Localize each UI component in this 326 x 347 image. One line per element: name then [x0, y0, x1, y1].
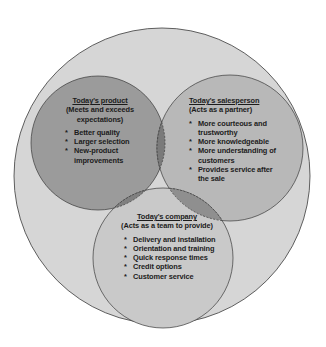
list-item: More understanding of customers: [189, 146, 279, 165]
list-item: Larger selection: [65, 137, 140, 146]
product-list: Better quality Larger selection New-prod…: [65, 128, 140, 165]
company-block: Today's company (Acts as a team to provi…: [112, 212, 222, 281]
list-item: Credit options: [124, 262, 222, 271]
company-title: Today's company: [112, 212, 222, 221]
list-item: Better quality: [65, 128, 140, 137]
product-subtitle: (Meets and exceeds expectations): [60, 105, 140, 124]
list-item: More courteous and trustworthy: [189, 119, 279, 138]
list-item: Provides service after the sale: [189, 165, 279, 184]
salesperson-list: More courteous and trustworthy More know…: [189, 119, 279, 184]
list-item: Delivery and installation: [124, 235, 222, 244]
company-subtitle: (Acts as a team to provide): [112, 221, 222, 230]
product-block: Today's product (Meets and exceeds expec…: [60, 96, 140, 165]
product-title: Today's product: [60, 96, 140, 105]
list-item: Customer service: [124, 272, 222, 281]
list-item: Quick response times: [124, 253, 222, 262]
salesperson-title: Today's salesperson: [189, 96, 279, 105]
salesperson-block: Today's salesperson (Acts as a partner) …: [189, 96, 279, 184]
company-list: Delivery and installation Orientation an…: [124, 235, 222, 281]
list-item: Orientation and training: [124, 244, 222, 253]
salesperson-subtitle: (Acts as a partner): [189, 105, 279, 114]
list-item: New-product improvements: [65, 146, 140, 165]
list-item: More knowledgeable: [189, 137, 279, 146]
